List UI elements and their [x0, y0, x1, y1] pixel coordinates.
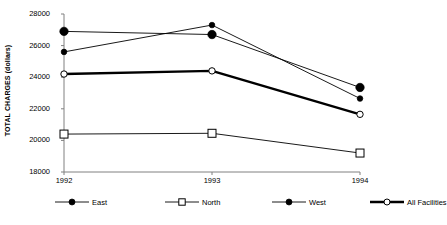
data-point-marker: [357, 96, 363, 102]
legend-item[interactable]: North: [165, 194, 220, 210]
data-point-marker: [209, 68, 215, 74]
data-point-marker: [384, 199, 390, 205]
data-point-marker: [61, 49, 67, 55]
series-line: [64, 71, 360, 114]
data-point-marker: [209, 22, 215, 28]
data-point-marker: [69, 199, 75, 205]
data-point-marker: [357, 111, 363, 117]
legend-label: East: [92, 198, 107, 207]
legend-label: North: [202, 198, 220, 207]
legend-marker-icon: [272, 196, 306, 208]
series-north: [60, 129, 364, 157]
data-point-marker: [356, 83, 364, 91]
data-point-marker: [60, 130, 68, 138]
legend-item[interactable]: West: [272, 194, 326, 210]
legend-marker-icon: [370, 196, 404, 208]
data-point-marker: [286, 199, 292, 205]
legend-item[interactable]: All Facilities: [370, 194, 447, 210]
chart-legend: EastNorthWestAll Facilities: [40, 194, 387, 212]
legend-marker-icon: [55, 196, 89, 208]
legend-marker-icon: [165, 196, 199, 208]
data-point-marker: [208, 129, 216, 137]
series-all-facilities: [61, 68, 363, 118]
data-point-marker: [179, 199, 185, 205]
data-point-marker: [61, 71, 67, 77]
data-point-marker: [60, 27, 68, 35]
series-east: [60, 27, 364, 91]
data-point-marker: [356, 149, 364, 157]
series-line: [64, 31, 360, 87]
legend-label: West: [309, 198, 326, 207]
legend-item[interactable]: East: [55, 194, 107, 210]
data-point-marker: [208, 30, 216, 38]
legend-label: All Facilities: [407, 198, 447, 207]
